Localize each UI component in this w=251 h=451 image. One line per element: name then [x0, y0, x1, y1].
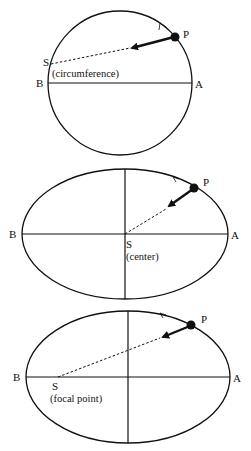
label-s-note: (focal point) [50, 393, 103, 405]
body-point [187, 321, 196, 330]
body-point [171, 33, 180, 42]
direction-arrow-icon [159, 23, 166, 30]
diagram-circle: P B A S (circumference) [36, 11, 203, 155]
label-s: S [126, 238, 132, 250]
label-a: A [195, 78, 203, 90]
force-arrow [169, 189, 193, 206]
force-arrow [132, 37, 174, 48]
label-b: B [9, 228, 16, 240]
diagram-ellipse-focus: P B A S (focal point) [13, 311, 241, 443]
label-s-note: (center) [126, 251, 159, 263]
force-arrow [163, 326, 190, 337]
orbit-diagrams: P B A S (circumference) P B A S (center)… [0, 0, 251, 451]
label-s: S [52, 380, 58, 392]
label-b: B [13, 371, 20, 383]
label-p: P [183, 28, 189, 40]
label-p: P [203, 176, 209, 188]
label-b: B [36, 77, 43, 89]
label-s-note: (circumference) [52, 68, 120, 80]
dashed-line-to-source [125, 209, 166, 234]
diagram-ellipse-center: P B A S (center) [9, 169, 239, 299]
dashed-line-to-source [51, 48, 130, 64]
label-p: P [201, 313, 207, 325]
dashed-line-to-source [58, 338, 160, 377]
label-s: S [43, 56, 49, 68]
label-a: A [231, 229, 239, 241]
body-point [190, 184, 199, 193]
label-a: A [233, 372, 241, 384]
